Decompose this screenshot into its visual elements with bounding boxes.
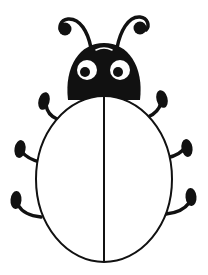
left-eye-icon [77, 60, 97, 80]
body-shell [36, 96, 172, 262]
right-eye-icon [110, 60, 130, 80]
bug-illustration [0, 0, 208, 275]
right-antenna-tip-icon [134, 22, 147, 35]
left-antenna-tip-icon [59, 23, 72, 36]
bug-drawing [0, 0, 208, 275]
